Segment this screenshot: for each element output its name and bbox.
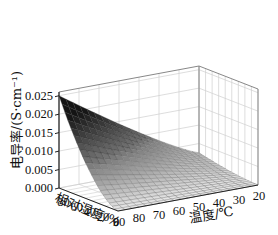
grid-line	[199, 70, 258, 93]
z-tick-label: 0.000	[25, 181, 53, 195]
z-tick-label: 0.005	[25, 163, 53, 177]
x-tick-label: 70	[153, 208, 166, 222]
z-tick-mark	[55, 133, 59, 134]
z-axis-ticks: 0.0000.0050.0100.0150.0200.025	[25, 89, 59, 195]
grid-line	[199, 107, 258, 130]
axis-edge	[199, 66, 258, 89]
x-tick-label: 20	[253, 189, 266, 203]
z-tick-mark	[55, 96, 59, 97]
grid-line	[199, 125, 258, 148]
z-tick-label: 0.020	[25, 107, 53, 121]
x-tick-label: 30	[233, 193, 246, 207]
z-tick-label: 0.015	[25, 126, 53, 140]
z-tick-mark	[55, 151, 59, 152]
z-tick-label: 0.025	[25, 89, 53, 103]
axis-edge	[59, 66, 199, 92]
z-tick-label: 0.010	[25, 144, 53, 158]
x-tick-label: 60	[173, 204, 186, 218]
z-axis-label: 电导率/(S·cm⁻¹)	[9, 71, 24, 169]
z-tick-mark	[55, 170, 59, 171]
z-tick-mark	[55, 114, 59, 115]
grid-line	[199, 88, 258, 111]
surface-chart: 0.0000.0050.0100.0150.0200.025 806040200…	[0, 0, 278, 235]
x-tick-label: 80	[133, 211, 146, 225]
